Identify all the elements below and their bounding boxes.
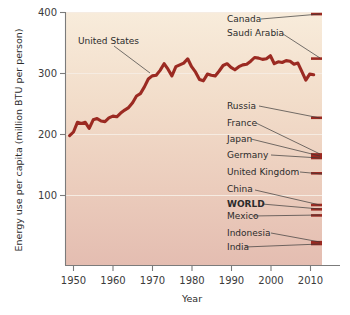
x-tick-label-2010: 2010 [298, 275, 323, 286]
chart-figure: 400 300 200 100 1950 1960 1970 1980 1990… [0, 0, 350, 315]
energy-use-per-capita-line-chart: 400 300 200 100 1950 1960 1970 1980 1990… [0, 0, 350, 315]
x-tick-label-2000: 2000 [258, 275, 283, 286]
series-label-india: India [227, 242, 249, 252]
y-tick-label-400: 400 [38, 7, 57, 18]
x-tick-label-1980: 1980 [179, 275, 204, 286]
x-axis-title: Year [181, 293, 202, 304]
x-tick-label-1990: 1990 [219, 275, 244, 286]
y-tick-label-100: 100 [38, 190, 57, 201]
x-tick-label-1950: 1950 [61, 275, 86, 286]
x-tick-label-1970: 1970 [140, 275, 165, 286]
plot-area-background [65, 12, 322, 265]
series-label-world: WORLD [227, 199, 265, 209]
series-label-france: France [227, 118, 257, 128]
series-label-japan: Japan [226, 134, 252, 144]
series-label-united-kingdom: United Kingdom [227, 167, 299, 177]
series-label-germany: Germany [227, 150, 269, 160]
series-label-saudi-arabia: Saudi Arabia [227, 28, 284, 38]
series-label-mexico: Mexico [227, 211, 259, 221]
series-label-united-states: United States [78, 36, 139, 46]
y-tick-label-200: 200 [38, 129, 57, 140]
series-label-china: China [227, 184, 253, 194]
y-tick-label-300: 300 [38, 68, 57, 79]
series-label-indonesia: Indonesia [227, 228, 271, 238]
series-label-russia: Russia [227, 101, 256, 111]
x-tick-label-1960: 1960 [100, 275, 125, 286]
series-label-canada: Canada [227, 14, 261, 24]
y-axis-title: Energy use per capita (million BTU per p… [13, 29, 24, 252]
